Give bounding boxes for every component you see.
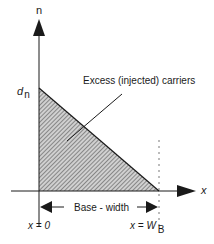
intercept-label-sub: n	[24, 89, 30, 100]
y-axis-label: n	[36, 4, 42, 16]
width-label: Base - width	[74, 202, 129, 213]
x-axis-arrowhead-icon	[177, 185, 196, 197]
intercept-label-main: d	[17, 85, 24, 97]
end-label-sub: B	[158, 224, 165, 235]
x-axis-label: x	[200, 184, 207, 196]
intercept-label: dn	[17, 85, 30, 100]
origin-label: x = 0	[27, 220, 50, 231]
end-label: x = WB	[129, 220, 165, 235]
carrier-distribution-diagram: n x dn Excess (injected) carriers Base -…	[0, 0, 214, 244]
region-leader-line	[67, 94, 122, 141]
region-label: Excess (injected) carriers	[83, 75, 195, 86]
width-arrow-right-icon	[146, 201, 158, 213]
y-axis-arrowhead-icon	[33, 19, 45, 36]
end-label-main: x = W	[129, 220, 157, 231]
width-arrow-left-icon	[40, 201, 52, 213]
